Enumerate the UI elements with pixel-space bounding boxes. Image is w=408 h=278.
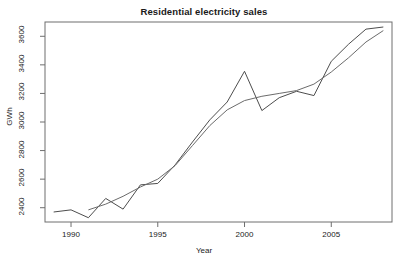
x-axis-ticks xyxy=(71,222,331,227)
x-tick-label: 1995 xyxy=(138,230,178,239)
y-tick-label: 2800 xyxy=(17,134,26,164)
y-axis-label: GWh xyxy=(5,97,14,137)
chart-root: Residential electricity sales GWh Year 1… xyxy=(0,0,408,278)
y-axis-ticks xyxy=(40,36,45,207)
x-axis-label: Year xyxy=(0,246,408,255)
x-tick-label: 2000 xyxy=(225,230,265,239)
y-tick-label: 3400 xyxy=(17,48,26,78)
series-line-trend xyxy=(88,31,383,210)
y-tick-label: 3600 xyxy=(17,20,26,50)
y-tick-label: 2600 xyxy=(17,163,26,193)
y-tick-label: 3200 xyxy=(17,77,26,107)
chart-title: Residential electricity sales xyxy=(0,6,408,17)
plot-frame xyxy=(45,22,392,222)
y-tick-label: 3000 xyxy=(17,106,26,136)
x-tick-label: 1990 xyxy=(51,230,91,239)
series-line-observed xyxy=(54,27,384,218)
y-tick-label: 2400 xyxy=(17,191,26,221)
x-tick-label: 2005 xyxy=(311,230,351,239)
plot-box xyxy=(45,22,392,222)
data-series-layer xyxy=(54,27,384,218)
